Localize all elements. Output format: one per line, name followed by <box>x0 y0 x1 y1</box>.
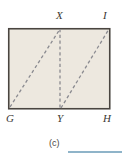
figure-caption: (c) <box>49 138 60 148</box>
answer-blank-rule[interactable] <box>68 151 122 153</box>
vertex-label-x: X <box>56 10 63 21</box>
vertex-label-y: Y <box>57 113 63 124</box>
vertex-label-i: I <box>103 10 107 21</box>
vertex-label-g: G <box>6 113 14 124</box>
vertex-label-h: H <box>103 113 111 124</box>
figure-canvas <box>0 0 122 160</box>
rectangle-GHIX <box>9 29 110 109</box>
geometry-figure: X I G Y H (c) <box>0 0 122 160</box>
